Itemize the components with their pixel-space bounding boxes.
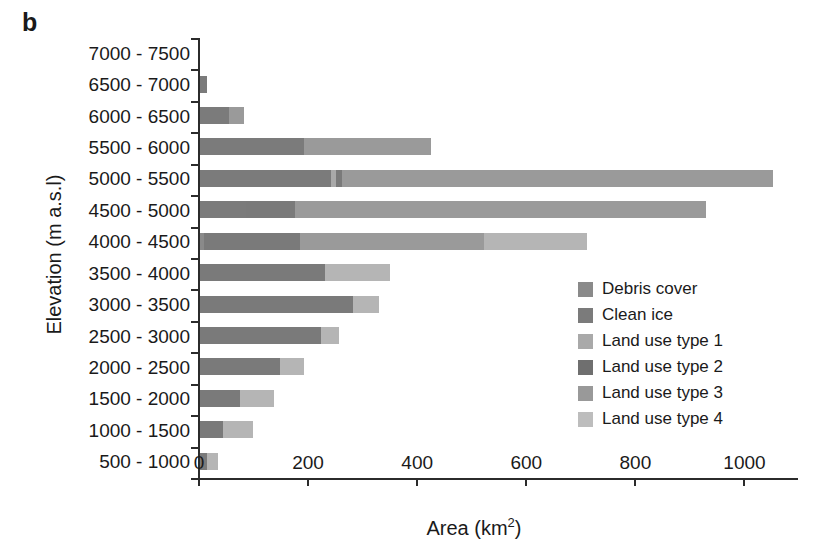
legend-item[interactable]: Clean ice bbox=[578, 302, 723, 328]
x-axis-tick-label: 1000 bbox=[723, 452, 765, 474]
stacked-bar[interactable] bbox=[200, 233, 587, 250]
panel-letter: b bbox=[22, 8, 37, 37]
legend-swatch-icon bbox=[578, 334, 593, 349]
x-axis-tick bbox=[743, 478, 745, 486]
bar-segment[interactable] bbox=[295, 201, 706, 218]
bar-row[interactable] bbox=[200, 258, 390, 287]
stacked-bar[interactable] bbox=[200, 296, 379, 313]
bar-segment[interactable] bbox=[300, 233, 484, 250]
y-axis-tick bbox=[191, 101, 198, 103]
legend-item[interactable]: Land use type 1 bbox=[578, 328, 723, 354]
y-axis-tick bbox=[191, 415, 198, 417]
legend-item[interactable]: Debris cover bbox=[578, 276, 723, 302]
x-axis-tick-label: 600 bbox=[510, 452, 542, 474]
stacked-bar[interactable] bbox=[200, 264, 390, 281]
bar-segment[interactable] bbox=[200, 138, 304, 155]
y-axis-tick bbox=[191, 132, 198, 134]
x-axis-tick-label: 0 bbox=[194, 452, 205, 474]
bar-row[interactable] bbox=[200, 289, 379, 318]
stacked-bar[interactable] bbox=[200, 327, 339, 344]
legend-swatch-icon bbox=[578, 412, 593, 427]
bar-segment[interactable] bbox=[223, 421, 253, 438]
x-axis-tick bbox=[307, 478, 309, 486]
stacked-bar[interactable] bbox=[200, 170, 773, 187]
bar-row[interactable] bbox=[200, 132, 431, 161]
x-axis-tick bbox=[416, 478, 418, 486]
legend-label: Land use type 1 bbox=[602, 331, 723, 351]
bar-segment[interactable] bbox=[342, 170, 773, 187]
y-axis-tick-label: 5500 - 6000 bbox=[20, 138, 190, 157]
stacked-bar[interactable] bbox=[200, 107, 244, 124]
bar-segment[interactable] bbox=[200, 107, 229, 124]
bar-segment[interactable] bbox=[200, 390, 240, 407]
legend-swatch-icon bbox=[578, 282, 593, 297]
legend-label: Debris cover bbox=[602, 279, 697, 299]
bar-segment[interactable] bbox=[353, 296, 379, 313]
bar-segment[interactable] bbox=[200, 76, 207, 93]
stacked-bar[interactable] bbox=[200, 421, 253, 438]
bar-segment[interactable] bbox=[240, 390, 274, 407]
y-axis-tick bbox=[191, 69, 198, 71]
bar-segment[interactable] bbox=[200, 201, 246, 218]
bar-row[interactable] bbox=[200, 101, 244, 130]
bar-row[interactable] bbox=[200, 164, 773, 193]
x-axis-tick-label: 200 bbox=[292, 452, 324, 474]
bar-row[interactable] bbox=[200, 227, 587, 256]
bar-segment[interactable] bbox=[200, 421, 223, 438]
bar-row[interactable] bbox=[200, 384, 274, 413]
bar-segment[interactable] bbox=[229, 107, 244, 124]
y-axis-tick bbox=[191, 289, 198, 291]
bar-segment[interactable] bbox=[207, 453, 218, 470]
bar-row[interactable] bbox=[200, 69, 207, 98]
bar-segment[interactable] bbox=[321, 327, 339, 344]
y-axis-tick bbox=[191, 321, 198, 323]
legend-label: Land use type 3 bbox=[602, 383, 723, 403]
legend-swatch-icon bbox=[578, 360, 593, 375]
y-axis-tick-label: 4500 - 5000 bbox=[20, 201, 190, 220]
bar-row[interactable] bbox=[200, 321, 339, 350]
y-axis-tick-label: 5000 - 5500 bbox=[20, 169, 190, 188]
x-axis-tick bbox=[634, 478, 636, 486]
bar-segment[interactable] bbox=[200, 327, 321, 344]
bar-segment[interactable] bbox=[200, 358, 280, 375]
bar-segment[interactable] bbox=[200, 296, 353, 313]
bar-row[interactable] bbox=[200, 195, 706, 224]
y-axis-tick-label: 7000 - 7500 bbox=[20, 44, 190, 63]
bar-segment[interactable] bbox=[200, 264, 325, 281]
bar-row[interactable] bbox=[200, 415, 253, 444]
x-axis-title-paren: ) bbox=[515, 517, 522, 539]
y-axis-tick-label: 6000 - 6500 bbox=[20, 107, 190, 126]
y-axis-tick-label: 6500 - 7000 bbox=[20, 75, 190, 94]
y-axis-tick bbox=[191, 478, 198, 480]
bar-segment[interactable] bbox=[204, 233, 299, 250]
x-axis-tick bbox=[198, 478, 200, 486]
bar-segment[interactable] bbox=[280, 358, 304, 375]
bar-segment[interactable] bbox=[200, 170, 331, 187]
legend-item[interactable]: Land use type 3 bbox=[578, 380, 723, 406]
stacked-bar[interactable] bbox=[200, 138, 431, 155]
y-axis-tick bbox=[191, 258, 198, 260]
bar-segment[interactable] bbox=[325, 264, 389, 281]
bar-segment[interactable] bbox=[246, 201, 295, 218]
bar-row[interactable] bbox=[200, 352, 304, 381]
x-axis-tick-label: 800 bbox=[620, 452, 652, 474]
y-axis-tick-label: 500 - 1000 bbox=[20, 452, 190, 471]
y-axis-tick-label: 3500 - 4000 bbox=[20, 264, 190, 283]
y-axis-tick-label: 4000 - 4500 bbox=[20, 232, 190, 251]
x-axis-tick-label: 400 bbox=[401, 452, 433, 474]
y-axis-tick bbox=[191, 195, 198, 197]
y-axis-tick bbox=[191, 227, 198, 229]
stacked-bar[interactable] bbox=[200, 358, 304, 375]
legend-item[interactable]: Land use type 4 bbox=[578, 406, 723, 432]
bar-segment[interactable] bbox=[304, 138, 432, 155]
bar-segment[interactable] bbox=[484, 233, 587, 250]
y-axis-tick bbox=[191, 38, 198, 40]
stacked-bar[interactable] bbox=[200, 201, 706, 218]
y-axis-tick-labels: 7000 - 75006500 - 70006000 - 65005500 - … bbox=[18, 38, 190, 478]
y-axis-tick bbox=[191, 447, 198, 449]
stacked-bar[interactable] bbox=[200, 76, 207, 93]
legend-item[interactable]: Land use type 2 bbox=[578, 354, 723, 380]
stacked-bar[interactable] bbox=[200, 390, 274, 407]
x-axis-tick bbox=[525, 478, 527, 486]
x-axis-title-superscript: 2 bbox=[508, 515, 515, 530]
